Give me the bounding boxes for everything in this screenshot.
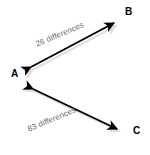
node-label-a: A: [11, 69, 18, 79]
node-label-c: C: [133, 126, 140, 136]
difference-diagram: B A C 26 differences 83 differences: [0, 0, 150, 155]
node-label-b: B: [125, 7, 132, 17]
